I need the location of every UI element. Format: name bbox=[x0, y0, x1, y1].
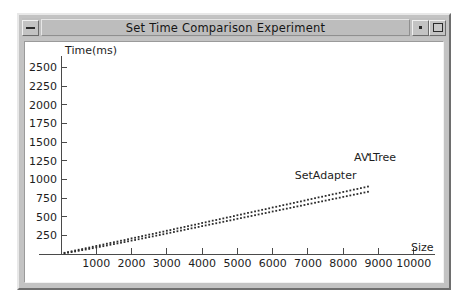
data-point bbox=[138, 238, 140, 240]
data-point bbox=[173, 228, 175, 230]
data-point bbox=[360, 187, 362, 189]
data-point bbox=[131, 240, 133, 242]
data-point bbox=[289, 207, 291, 209]
data-point bbox=[184, 226, 186, 228]
plot-panel: 2505007501000125015001750200022502500100… bbox=[24, 41, 444, 283]
minimize-icon bbox=[26, 27, 35, 29]
data-point bbox=[318, 196, 320, 198]
data-point bbox=[145, 235, 147, 237]
data-point bbox=[272, 211, 274, 213]
data-point bbox=[353, 194, 355, 196]
data-point bbox=[240, 214, 242, 216]
window-titlebar: Set Time Comparison Experiment bbox=[22, 18, 446, 37]
data-point bbox=[205, 221, 207, 223]
data-point bbox=[159, 234, 161, 236]
data-point bbox=[247, 216, 249, 218]
data-point bbox=[254, 214, 256, 216]
scatter-plot: 2505007501000125015001750200022502500100… bbox=[25, 42, 443, 282]
data-point bbox=[233, 219, 235, 221]
data-point bbox=[275, 210, 277, 212]
data-point bbox=[296, 205, 298, 207]
data-point bbox=[360, 192, 362, 194]
y-tick-label: 500 bbox=[36, 211, 57, 224]
data-point bbox=[205, 225, 207, 227]
data-point bbox=[120, 242, 122, 244]
data-point bbox=[102, 244, 104, 246]
data-point bbox=[258, 210, 260, 212]
data-point bbox=[64, 252, 66, 254]
data-point bbox=[124, 241, 126, 243]
data-point bbox=[237, 218, 239, 220]
data-point bbox=[85, 247, 87, 249]
data-point bbox=[95, 245, 97, 247]
data-point bbox=[349, 195, 351, 197]
data-point bbox=[349, 190, 351, 192]
data-point bbox=[134, 239, 136, 241]
data-point bbox=[300, 205, 302, 207]
maximize-button[interactable] bbox=[429, 20, 446, 36]
data-point bbox=[169, 232, 171, 234]
data-point bbox=[120, 240, 122, 242]
data-point bbox=[71, 250, 73, 252]
data-point bbox=[321, 196, 323, 198]
data-point bbox=[102, 245, 104, 247]
data-point bbox=[272, 207, 274, 209]
series-annotation: AVLTree bbox=[354, 151, 396, 164]
data-point bbox=[367, 186, 369, 188]
x-tick-label: 7000 bbox=[294, 257, 322, 270]
y-tick-label: 250 bbox=[36, 229, 57, 242]
data-point bbox=[335, 193, 337, 195]
data-point bbox=[187, 225, 189, 227]
data-point bbox=[198, 223, 200, 225]
y-tick-label: 1250 bbox=[29, 155, 57, 168]
data-point bbox=[106, 243, 108, 245]
data-point bbox=[282, 204, 284, 206]
data-point bbox=[311, 198, 313, 200]
minimize-button-left[interactable] bbox=[22, 20, 39, 36]
data-point bbox=[222, 218, 224, 220]
data-point bbox=[237, 214, 239, 216]
data-point bbox=[180, 230, 182, 232]
y-tick-label: 1000 bbox=[29, 173, 57, 186]
data-point bbox=[99, 246, 101, 248]
data-point bbox=[339, 192, 341, 194]
data-point bbox=[219, 222, 221, 224]
data-point bbox=[134, 237, 136, 239]
data-point bbox=[364, 192, 366, 194]
data-point bbox=[325, 200, 327, 202]
data-point bbox=[169, 229, 171, 231]
data-point bbox=[117, 241, 119, 243]
data-point bbox=[346, 190, 348, 192]
data-point bbox=[342, 191, 344, 193]
annotations-layer: AVLTreeSetAdapter bbox=[295, 151, 396, 183]
data-point bbox=[251, 211, 253, 213]
series-annotation: SetAdapter bbox=[295, 169, 357, 182]
data-point bbox=[293, 202, 295, 204]
data-point bbox=[286, 204, 288, 206]
data-point bbox=[304, 204, 306, 206]
data-point bbox=[191, 224, 193, 226]
data-point bbox=[131, 237, 133, 239]
x-tick-label: 2000 bbox=[118, 257, 146, 270]
data-point bbox=[113, 241, 115, 243]
data-point bbox=[88, 247, 90, 249]
data-point bbox=[367, 191, 369, 193]
data-point bbox=[117, 243, 119, 245]
data-point bbox=[141, 235, 143, 237]
data-point bbox=[152, 233, 154, 235]
data-point bbox=[279, 209, 281, 211]
data-point bbox=[311, 203, 313, 205]
data-point bbox=[187, 228, 189, 230]
data-point bbox=[162, 233, 164, 235]
data-point bbox=[275, 206, 277, 208]
y-tick-label: 2500 bbox=[29, 61, 57, 74]
data-point bbox=[314, 197, 316, 199]
data-point bbox=[208, 224, 210, 226]
data-point bbox=[240, 217, 242, 219]
data-point bbox=[226, 220, 228, 222]
minimize-button-right[interactable] bbox=[412, 20, 429, 36]
data-point bbox=[342, 196, 344, 198]
data-point bbox=[226, 217, 228, 219]
x-tick-label: 1000 bbox=[82, 257, 110, 270]
y-tick-label: 2000 bbox=[29, 99, 57, 112]
